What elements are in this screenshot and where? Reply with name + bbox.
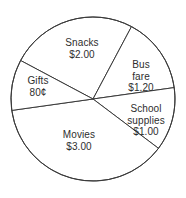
pie-label-value: 80¢ [27, 86, 48, 98]
pie-label-name: School [127, 103, 165, 115]
pie-label-name: supplies [127, 114, 165, 126]
pie-label-value: $1.20 [128, 82, 154, 94]
pie-label-name: Snacks [65, 37, 98, 49]
pie-chart-figure: Snacks$2.00Busfare$1.20Schoolsupplies$1.… [0, 0, 186, 198]
pie-label-name: Gifts [27, 75, 48, 87]
pie-label-school-supplies: Schoolsupplies$1.00 [127, 103, 165, 138]
pie-label-movies: Movies$3.00 [63, 129, 95, 152]
pie-label-snacks: Snacks$2.00 [65, 37, 98, 60]
pie-label-name: fare [128, 70, 154, 82]
pie-label-value: $2.00 [65, 48, 98, 60]
pie-label-value: $3.00 [63, 140, 95, 152]
pie-label-name: Bus [128, 59, 154, 71]
pie-label-name: Movies [63, 129, 95, 141]
pie-chart-svg [0, 0, 186, 198]
pie-label-value: $1.00 [127, 126, 165, 138]
pie-label-gifts: Gifts80¢ [27, 75, 48, 98]
pie-label-bus-fare: Busfare$1.20 [128, 59, 154, 94]
